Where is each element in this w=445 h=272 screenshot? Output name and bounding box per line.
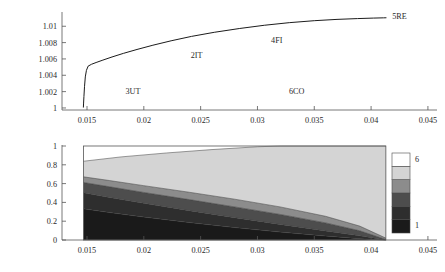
y-tick-label-1: 0.2: [47, 217, 57, 226]
x-tick-label-6: 0.045: [419, 116, 437, 125]
colorbar-swatch-5: [392, 166, 410, 179]
x-tick-label-2: 0.025: [191, 246, 209, 255]
colorbar-swatch-2: [392, 206, 410, 219]
colorbar-top-label: 6: [415, 155, 419, 164]
top-line-plot-panel: 11.0021.0041.0061.0081.010.0150.020.0250…: [0, 0, 445, 136]
annotation-2it: 2IT: [191, 51, 203, 60]
y-tick-label-2: 1.004: [39, 71, 57, 80]
x-tick-label-5: 0.04: [364, 246, 378, 255]
x-tick-label-0: 0.015: [78, 116, 96, 125]
x-tick-label-0: 0.015: [78, 246, 96, 255]
bottom-contour-plot-panel: 00.20.40.60.810.0150.020.0250.030.0350.0…: [0, 136, 445, 272]
y-tick-label-4: 1.008: [39, 39, 57, 48]
y-tick-label-5: 1: [53, 142, 57, 151]
y-tick-label-4: 0.8: [47, 161, 57, 170]
colorbar-swatch-1: [392, 220, 410, 233]
colorbar-swatch-3: [392, 193, 410, 206]
x-tick-label-3: 0.03: [250, 246, 264, 255]
colorbar-swatch-4: [392, 180, 410, 193]
x-tick-label-3: 0.03: [250, 116, 264, 125]
colorbar-swatch-6: [392, 153, 410, 166]
x-tick-label-6: 0.045: [419, 246, 437, 255]
annotation-4fi: 4FI: [271, 36, 283, 45]
y-tick-label-5: 1.01: [43, 22, 57, 31]
annotation-5re: 5RE: [392, 12, 407, 21]
x-tick-label-1: 0.02: [137, 246, 151, 255]
colorbar-bottom-label: 1: [415, 221, 419, 230]
x-tick-label-4: 0.035: [305, 116, 323, 125]
top-plot-svg: 11.0021.0041.0061.0081.010.0150.020.0250…: [0, 0, 445, 136]
y-tick-label-3: 0.6: [47, 180, 57, 189]
annotation-6co: 6CO: [289, 87, 305, 96]
x-tick-label-2: 0.025: [191, 116, 209, 125]
y-tick-label-2: 0.4: [47, 198, 57, 207]
bottom-plot-svg: 00.20.40.60.810.0150.020.0250.030.0350.0…: [0, 136, 445, 272]
x-tick-label-5: 0.04: [364, 116, 378, 125]
y-tick-label-1: 1.002: [39, 88, 57, 97]
annotation-3ut: 3UT: [126, 87, 141, 96]
y-tick-label-3: 1.006: [39, 55, 57, 64]
x-tick-label-1: 0.02: [137, 116, 151, 125]
y-tick-label-0: 0: [53, 236, 57, 245]
y-tick-label-0: 1: [53, 104, 57, 113]
x-tick-label-4: 0.035: [305, 246, 323, 255]
